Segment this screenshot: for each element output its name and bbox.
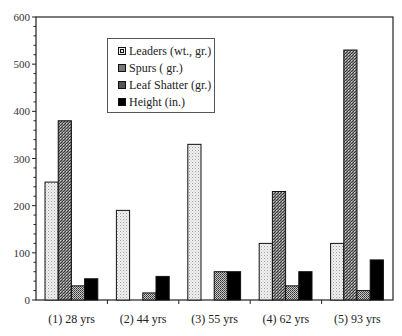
bar [370, 260, 383, 300]
bar [344, 50, 357, 300]
y-tick-label: 100 [14, 247, 31, 259]
bar [214, 272, 227, 300]
bar [156, 276, 169, 300]
bar [357, 291, 370, 300]
bar [272, 192, 285, 300]
x-tick-label: (2) 44 yrs [120, 312, 167, 326]
bar [71, 286, 84, 300]
leaf-shatter-swatch-icon [118, 81, 126, 89]
y-tick-label: 400 [14, 105, 31, 117]
x-tick-label: (5) 93 yrs [334, 312, 381, 326]
bar [116, 210, 129, 300]
y-axis: 0100200300400500600 [14, 11, 37, 306]
legend: Leaders (wt., gr.) Spurs ( gr.) Leaf Sha… [107, 38, 215, 113]
spurs-swatch-icon [118, 64, 126, 72]
y-tick-label: 500 [14, 58, 31, 70]
bar [45, 182, 58, 300]
x-axis: (1) 28 yrs(2) 44 yrs(3) 55 yrs(4) 62 yrs… [48, 300, 381, 326]
legend-label: Leaders (wt., gr.) [129, 44, 211, 59]
y-tick-label: 0 [25, 294, 31, 306]
legend-label: Spurs ( gr.) [129, 61, 183, 76]
legend-item-height: Height (in.) [118, 94, 185, 110]
legend-item-spurs: Spurs ( gr.) [118, 60, 183, 76]
bar [299, 272, 312, 300]
x-tick-label: (3) 55 yrs [191, 312, 238, 326]
y-tick-label: 200 [14, 200, 31, 212]
bar [286, 286, 299, 300]
height-swatch-icon [118, 98, 126, 106]
legend-label: Height (in.) [129, 95, 185, 110]
y-tick-label: 300 [14, 153, 31, 165]
bar [85, 279, 98, 300]
x-tick-label: (1) 28 yrs [48, 312, 95, 326]
x-tick-label: (4) 62 yrs [263, 312, 310, 326]
legend-item-leaf-shatter: Leaf Shatter (gr.) [118, 77, 211, 93]
bar [188, 144, 201, 300]
bar [58, 121, 71, 300]
leaders-swatch-icon [118, 47, 126, 55]
legend-item-leaders: Leaders (wt., gr.) [118, 43, 211, 59]
bar [227, 272, 240, 300]
bar [259, 243, 272, 300]
y-tick-label: 600 [14, 11, 31, 23]
bar [143, 293, 156, 300]
legend-label: Leaf Shatter (gr.) [129, 78, 211, 93]
bar [331, 243, 344, 300]
